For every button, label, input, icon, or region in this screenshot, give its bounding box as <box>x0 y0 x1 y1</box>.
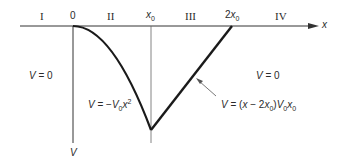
equation-region-IV: V = 0 <box>256 71 280 81</box>
region-label-I: I <box>40 11 44 22</box>
tick-label-origin: 0 <box>70 11 76 21</box>
equation-region-I: V = 0 <box>29 71 53 81</box>
equation-region-III: V = (x − 2x0)V0x0 <box>221 100 296 110</box>
pointer-line <box>199 81 216 96</box>
x-axis-label: x <box>322 20 327 30</box>
region-label-II: II <box>107 11 114 22</box>
linear-segment <box>151 26 232 130</box>
region-label-IV: IV <box>275 11 287 22</box>
tick-label-x0: x0 <box>146 10 155 20</box>
v-axis-label: V <box>70 148 77 158</box>
potential-diagram: I II III IV 0 x0 2x0 x V V = 0 V = −V0x2… <box>0 0 351 163</box>
equation-region-II: V = −V0x2 <box>88 100 131 110</box>
parabola-curve <box>73 26 151 130</box>
diagram-canvas <box>0 0 351 163</box>
x-axis-arrowhead-icon <box>308 23 319 29</box>
tick-label-2x0: 2x0 <box>225 10 239 20</box>
region-label-III: III <box>185 11 196 22</box>
